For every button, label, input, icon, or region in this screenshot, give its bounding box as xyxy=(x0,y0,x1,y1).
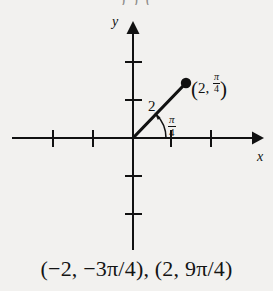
point-theta-denominator: 4 xyxy=(213,84,220,95)
figure-page: ) ) ( xyxy=(0,0,273,291)
y-axis-arrowhead xyxy=(127,21,140,34)
x-axis-label: x xyxy=(257,150,263,164)
y-axis-label: y xyxy=(112,15,118,29)
caption-text: (−2, −3π/4), (2, 9π/4) xyxy=(0,256,273,282)
angle-label: π 4 xyxy=(168,114,176,138)
point-label-comma: , xyxy=(206,80,214,96)
angle-denominator: 4 xyxy=(168,127,176,139)
polar-coordinate-diagram: y x 2 π 4 (2, π 4 ) xyxy=(0,10,273,255)
radius-label: 2 xyxy=(148,99,156,114)
x-axis-arrowhead xyxy=(252,132,264,145)
point-label: (2, π 4 ) xyxy=(191,72,227,100)
plotted-point-marker xyxy=(181,78,191,88)
point-label-close-paren: ) xyxy=(220,77,227,101)
point-theta-fraction: π 4 xyxy=(213,72,220,94)
diagram-canvas xyxy=(0,10,273,255)
angle-numerator: π xyxy=(168,114,176,127)
point-label-open-paren: ( xyxy=(191,77,198,101)
point-label-r: 2 xyxy=(198,80,206,96)
angle-fraction: π 4 xyxy=(168,114,176,138)
point-theta-numerator: π xyxy=(213,72,220,84)
terminal-ray xyxy=(133,84,185,138)
clipped-text-above: ) ) ( xyxy=(0,0,273,5)
